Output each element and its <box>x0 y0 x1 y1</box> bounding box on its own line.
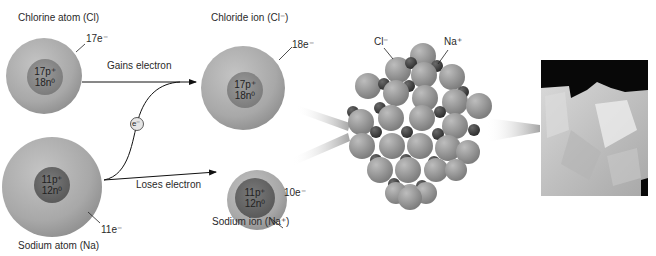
beam-chloride-to-crystal <box>296 105 350 131</box>
loses-electron-label: Loses electron <box>136 180 201 190</box>
sodium-ion-neutrons: 12n⁰ <box>241 198 269 209</box>
gains-electron-label: Gains electron <box>107 61 171 71</box>
chlorine-nucleus: 17p⁺ 18n⁰ <box>31 66 59 88</box>
sodium-ion-label: Sodium ion (Na⁺) <box>212 217 289 227</box>
nacl-crystal-lattice <box>347 43 492 210</box>
chloride-electron-count: 18e⁻ <box>292 40 314 50</box>
beam-crystal-to-photo <box>486 118 540 142</box>
chloride-ion-label: Chloride ion (Cl⁻) <box>211 13 288 23</box>
chlorine-atom-label: Chlorine atom (Cl) <box>18 13 99 23</box>
crystal-sodium-label: Na⁺ <box>444 37 462 47</box>
sodium-atom-label: Sodium atom (Na) <box>18 241 99 251</box>
sodium-electron-count: 11e⁻ <box>101 225 122 235</box>
chloride-nucleus: 17p⁺ 18n⁰ <box>231 79 259 101</box>
beam-sodium-to-crystal <box>292 133 350 166</box>
chlorine-electron-count: 17e⁻ <box>86 34 108 44</box>
electron-transfer-path <box>104 82 180 180</box>
chlorine-protons: 17p⁺ <box>31 66 59 77</box>
sodium-ion-electron-count: 10e⁻ <box>284 188 306 198</box>
sodium-ion-protons: 11p⁺ <box>241 187 269 198</box>
chlorine-neutrons: 18n⁰ <box>31 77 59 88</box>
crystal-chloride-label: Cl⁻ <box>374 37 388 47</box>
chloride-protons: 17p⁺ <box>231 79 259 90</box>
chloride-neutrons: 18n⁰ <box>231 90 259 101</box>
sodium-neutrons: 12n⁰ <box>38 185 66 196</box>
salt-photo-image <box>541 60 648 196</box>
sodium-protons: 11p⁺ <box>38 174 66 185</box>
sodium-ion-nucleus: 11p⁺ 12n⁰ <box>241 187 269 209</box>
salt-crystal-photo <box>541 60 648 196</box>
electron-token: e⁻ <box>132 120 140 128</box>
sodium-nucleus: 11p⁺ 12n⁰ <box>38 174 66 196</box>
